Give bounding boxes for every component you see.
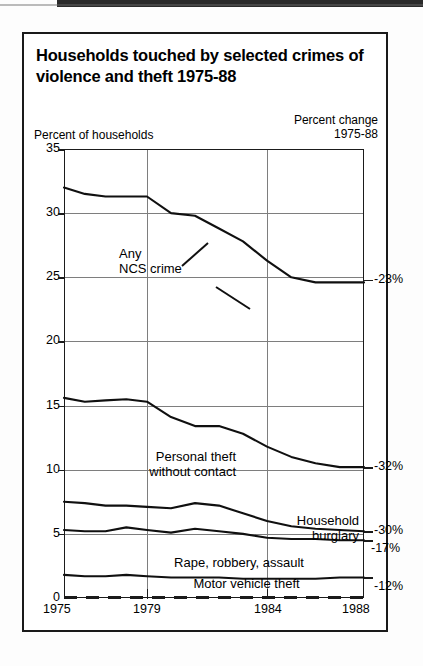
pct-rape-robbery-assault: -17% — [371, 541, 400, 555]
series-label-any-ncs-crime: Any NCS crime — [119, 246, 182, 277]
any-ncs-line2: NCS crime — [119, 261, 182, 276]
ytick-label-15: 15 — [20, 398, 60, 412]
household-line1: Household — [184, 513, 359, 528]
page-title: Households touched by selected crimes of… — [36, 45, 366, 87]
series-label-household-burglary: Household burglary — [184, 513, 359, 544]
leader-line-any-ncs-upper — [182, 243, 208, 266]
ytick-label-30: 30 — [20, 205, 60, 219]
pct-motor-vehicle-theft: -12% — [374, 579, 403, 593]
pct-tick-personal-theft — [364, 467, 373, 469]
pct-tick-motor-vehicle — [364, 577, 373, 579]
personal-theft-line2: without contact — [64, 464, 236, 479]
y-axis-title: Percent of households — [34, 128, 153, 142]
ytick-label-5: 5 — [20, 526, 60, 540]
figure-page: Households touched by selected crimes of… — [0, 0, 423, 666]
household-line2: burglary — [184, 528, 359, 543]
ytick-label-35: 35 — [20, 141, 60, 155]
line-any-ncs-crime — [64, 188, 364, 283]
xtick-label-1975: 1975 — [43, 602, 71, 616]
pct-tick-any-ncs — [364, 280, 373, 282]
xtick-label-1984: 1984 — [254, 602, 282, 616]
plot-area: 35 30 25 20 15 10 5 0 1975 1979 1984 198… — [64, 149, 364, 598]
xtick-label-1979: 1979 — [133, 602, 161, 616]
ytick-label-25: 25 — [20, 269, 60, 283]
percent-change-title-line2: 1975-88 — [294, 127, 378, 141]
series-label-rape-robbery-assault: Rape, robbery, assault — [124, 555, 354, 570]
leader-line-any-ncs-lower — [216, 287, 250, 309]
xtick-label-1988: 1988 — [342, 602, 370, 616]
any-ncs-line1: Any — [119, 246, 182, 261]
pct-tick-household-burglary — [364, 531, 373, 533]
percent-change-title-line1: Percent change — [294, 113, 378, 127]
series-label-motor-vehicle-theft: Motor vehicle theft — [139, 576, 354, 591]
pct-household-burglary: -30% — [374, 523, 403, 537]
percent-change-axis-title: Percent change 1975-88 — [294, 113, 378, 142]
personal-theft-line1: Personal theft — [64, 449, 236, 464]
pct-personal-theft: -32% — [374, 459, 403, 473]
figure-box: Households touched by selected crimes of… — [22, 32, 388, 632]
series-label-personal-theft: Personal theft without contact — [64, 449, 236, 480]
ytick-label-10: 10 — [20, 462, 60, 476]
ytick-label-20: 20 — [20, 333, 60, 347]
scan-edge-line — [0, 4, 423, 6]
pct-any-ncs-crime: -23% — [374, 272, 403, 286]
